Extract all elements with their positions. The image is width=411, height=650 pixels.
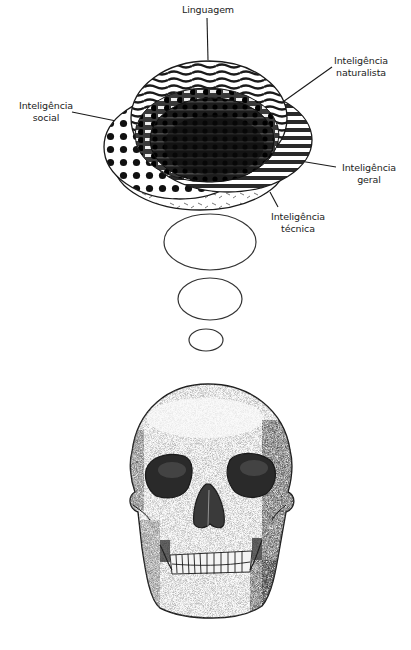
label-general-line2: geral [335,174,403,186]
label-technical-line1: Inteligência [264,211,332,223]
label-technical-intelligence: Inteligência técnica [264,211,332,235]
teeth [170,551,252,574]
thought-bubble-large [164,214,256,270]
label-naturalist-line2: naturalista [327,67,395,79]
label-general-line1: Inteligência [335,162,403,174]
label-social-line2: social [12,112,80,124]
label-technical-line2: técnica [264,223,332,235]
skull-illustration [120,380,302,630]
label-naturalist-line1: Inteligência [327,55,395,67]
label-language-text: Linguagem [177,4,239,16]
label-social-line1: Inteligência [12,100,80,112]
thought-bubble-medium [178,278,242,320]
label-naturalist-intelligence: Inteligência naturalista [327,55,395,79]
label-general-intelligence: Inteligência geral [335,162,403,186]
general-intelligence-shadow [164,115,264,175]
label-language: Linguagem [177,4,239,16]
label-social-intelligence: Inteligência social [12,100,80,124]
diagram-canvas [0,0,411,650]
thought-bubble-small [189,329,223,351]
